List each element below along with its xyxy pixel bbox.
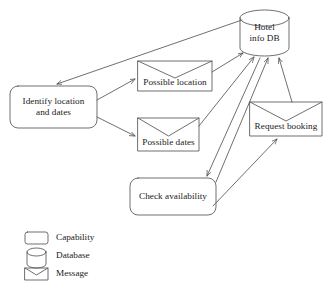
node-possible-location-shape — [138, 61, 212, 91]
node-check-availability-shape — [130, 178, 216, 215]
legend-message-icon — [25, 268, 48, 280]
node-possible-dates-shape — [138, 118, 199, 151]
edge-check-to-request-booking — [213, 139, 277, 206]
edge-db-to-check-availability — [207, 58, 260, 176]
legend-label-database: Database — [56, 250, 90, 261]
edge-identify-to-possible-dates — [97, 117, 135, 136]
edge-check-availability-to-db — [216, 58, 268, 182]
diagram-canvas: Hotel info DB Identify location and date… — [0, 0, 325, 287]
legend-capability-icon — [25, 232, 48, 244]
edge-db-to-identify — [57, 20, 242, 84]
node-hotel-info-db-shape — [240, 10, 289, 56]
legend-label-capability: Capability — [56, 232, 94, 243]
node-identify-location-shape — [10, 86, 97, 128]
legend-database-icon — [27, 248, 46, 268]
edge-possible-dates-to-db — [199, 57, 254, 126]
node-request-booking-shape — [250, 102, 322, 136]
edge-request-booking-to-db — [279, 58, 292, 102]
edge-identify-to-possible-location — [97, 79, 135, 100]
diagram-graphics — [0, 0, 325, 287]
legend-label-message: Message — [56, 268, 88, 279]
edge-possible-location-to-db — [212, 53, 243, 72]
